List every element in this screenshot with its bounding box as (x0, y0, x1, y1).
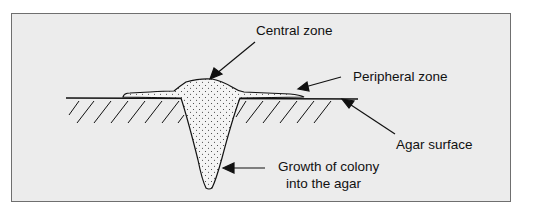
arrow-head-growth (223, 163, 234, 173)
arrow-head-central (210, 68, 222, 79)
arrow-head-peripheral (298, 82, 309, 91)
label-agar-surface: Agar surface (396, 137, 473, 152)
arrows (210, 42, 395, 173)
label-growth-line2: into the agar (286, 176, 361, 191)
label-central-zone: Central zone (256, 23, 333, 38)
arrow-head-surface (342, 99, 354, 108)
label-peripheral-zone: Peripheral zone (353, 69, 448, 84)
label-growth-line1: Growth of colony (278, 159, 379, 174)
